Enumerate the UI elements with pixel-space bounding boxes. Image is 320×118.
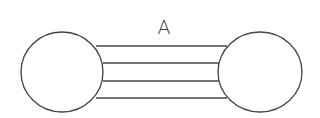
diagram-label: A [155, 17, 173, 37]
circle-nodes [21, 32, 302, 112]
right-circle [218, 32, 302, 112]
left-circle [21, 32, 103, 112]
bond-lines [96, 46, 227, 98]
